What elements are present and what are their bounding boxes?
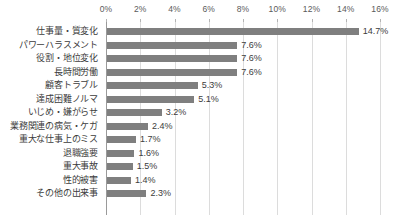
x-axis-tick-label: 14% (337, 4, 354, 14)
axis-tickmark (243, 19, 244, 22)
bar-value-label: 2.3% (150, 187, 171, 201)
bar-value-label: 1.5% (137, 160, 158, 174)
chart-row: 仕事量・質変化14.7% (0, 25, 400, 39)
chart-row: 業務関連の病気・ケガ2.4% (0, 120, 400, 134)
x-axis-tick-label: 4% (168, 4, 181, 14)
bar (107, 109, 162, 116)
x-axis-tick-label: 12% (303, 4, 320, 14)
bar-value-label: 14.7% (363, 25, 389, 39)
category-label: 重大な仕事上のミス (19, 133, 98, 147)
bar (107, 69, 237, 76)
bar (107, 123, 148, 130)
bar-value-label: 1.4% (135, 174, 156, 188)
axis-tickmark (380, 19, 381, 22)
axis-tickmark (346, 19, 347, 22)
chart-row: 重大事故1.5% (0, 160, 400, 174)
chart-row: 長時間労働7.6% (0, 66, 400, 80)
bar (107, 177, 131, 184)
axis-tickmark (106, 19, 107, 22)
axis-tickmark (312, 19, 313, 22)
bar (107, 82, 198, 89)
bar-value-label: 7.6% (241, 52, 262, 66)
bar-value-label: 5.1% (198, 93, 219, 107)
bar-value-label: 5.3% (202, 79, 223, 93)
category-label: 仕事量・質変化 (36, 25, 98, 39)
axis-tickmark (209, 19, 210, 22)
chart-row: 達成困難ノルマ5.1% (0, 93, 400, 107)
category-label: 業務関連の病気・ケガ (10, 120, 98, 134)
category-label: 退職強要 (63, 147, 98, 161)
chart-row: 性的被害1.4% (0, 174, 400, 188)
bar-value-label: 7.6% (241, 39, 262, 53)
chart-row: いじめ・嫌がらせ3.2% (0, 106, 400, 120)
category-label: その他の出来事 (36, 187, 98, 201)
bar (107, 42, 237, 49)
chart-row: 顧客トラブル5.3% (0, 79, 400, 93)
category-label: いじめ・嫌がらせ (28, 106, 98, 120)
chart-row: 役割・地位変化7.6% (0, 52, 400, 66)
x-axis-tick-label: 0% (100, 4, 113, 14)
category-label: パワーハラスメント (19, 39, 98, 53)
x-axis-tick-label: 16% (371, 4, 388, 14)
bar (107, 55, 237, 62)
bar (107, 96, 194, 103)
bar-value-label: 1.6% (138, 147, 159, 161)
category-label: 顧客トラブル (45, 79, 98, 93)
bar-value-label: 3.2% (166, 106, 187, 120)
chart-row: パワーハラスメント7.6% (0, 39, 400, 53)
axis-tickmark (140, 19, 141, 22)
chart-row: 重大な仕事上のミス1.7% (0, 133, 400, 147)
x-axis-tick-label: 8% (237, 4, 250, 14)
x-axis-tick-label: 10% (269, 4, 286, 14)
axis-tickmark (175, 19, 176, 22)
x-axis-tick-labels: 0%2%4%6%8%10%12%14%16% (0, 0, 400, 22)
x-axis-tick-label: 2% (134, 4, 147, 14)
bar (107, 163, 133, 170)
bar (107, 150, 134, 157)
category-label: 性的被害 (63, 174, 98, 188)
chart-row: 退職強要1.6% (0, 147, 400, 161)
axis-tickmark (277, 19, 278, 22)
category-label: 役割・地位変化 (36, 52, 98, 66)
bar-value-label: 7.6% (241, 66, 262, 80)
category-label: 重大事故 (63, 160, 98, 174)
category-label: 達成困難ノルマ (36, 93, 98, 107)
bar-chart: 0%2%4%6%8%10%12%14%16% 仕事量・質変化14.7%パワーハラ… (0, 0, 400, 221)
x-axis-tick-label: 6% (203, 4, 216, 14)
bar-value-label: 2.4% (152, 120, 173, 134)
chart-row: その他の出来事2.3% (0, 187, 400, 201)
category-label: 長時間労働 (54, 66, 98, 80)
bar (107, 28, 359, 35)
bar-value-label: 1.7% (140, 133, 161, 147)
bar (107, 136, 136, 143)
bar (107, 190, 146, 197)
